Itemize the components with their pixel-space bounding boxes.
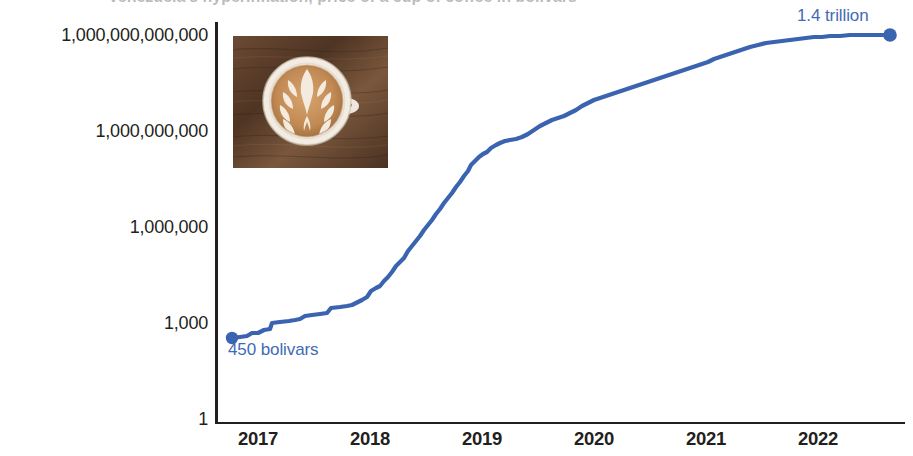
- x-tick-label-2022: 2022: [763, 428, 873, 450]
- x-tick-label-2019: 2019: [427, 428, 537, 450]
- x-tick-label-2017: 2017: [203, 428, 313, 450]
- annotation-start-value: 450 bolivars: [228, 340, 318, 360]
- y-axis-line: [215, 22, 218, 424]
- coffee-cup-inset-photo: [233, 36, 388, 168]
- annotation-end-value: 1.4 trillion: [797, 6, 869, 26]
- y-tick-label: 1,000,000,000,000: [28, 25, 208, 46]
- y-tick-label: 1,000: [28, 313, 208, 334]
- x-axis-line: [215, 422, 905, 425]
- y-tick-label: 1,000,000,000: [28, 121, 208, 142]
- y-tick-label: 1: [28, 409, 208, 430]
- y-tick-label: 1,000,000: [28, 217, 208, 238]
- x-tick-label-2018: 2018: [315, 428, 425, 450]
- inflation-line-chart-figure: Venezuela's hyperinflation, price of a c…: [0, 0, 913, 456]
- x-tick-label-2020: 2020: [539, 428, 649, 450]
- end-point-marker: [883, 28, 897, 42]
- chart-title: Venezuela's hyperinflation, price of a c…: [108, 0, 577, 6]
- x-tick-label-2021: 2021: [651, 428, 761, 450]
